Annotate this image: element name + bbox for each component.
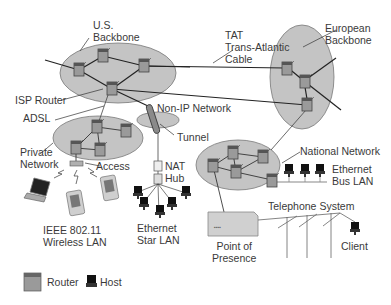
pda-icon bbox=[100, 175, 119, 201]
router-icon bbox=[98, 48, 110, 62]
router-icon bbox=[267, 173, 279, 187]
router-icon bbox=[74, 62, 86, 76]
us-backbone-label: U.S. Backbone bbox=[93, 19, 140, 43]
router-icon bbox=[139, 58, 151, 72]
host-icon bbox=[300, 164, 310, 177]
private-network-label: Private Network bbox=[20, 146, 59, 170]
legend-host-icon bbox=[86, 275, 97, 287]
tunnel-label: Tunnel bbox=[177, 131, 209, 143]
tat-label: TAT Trans-Atlantic Cable bbox=[225, 29, 289, 65]
telephone-system-label: Telephone System bbox=[268, 200, 354, 212]
hub-icon bbox=[154, 174, 162, 184]
nat-icon bbox=[154, 161, 162, 171]
nat-label: NAT bbox=[165, 160, 185, 172]
isp-router-icon bbox=[107, 81, 119, 95]
adsl-label: ADSL bbox=[23, 112, 50, 124]
point-of-presence-icon: ▪▪▪▪ bbox=[208, 212, 258, 236]
host-icon bbox=[315, 164, 325, 177]
wireless-lan-label: IEEE 802.11 Wireless LAN bbox=[43, 224, 107, 248]
router-icon bbox=[300, 74, 312, 88]
router-icon bbox=[71, 140, 83, 154]
european-backbone-label: European Backbone bbox=[325, 22, 372, 46]
host-icon bbox=[139, 197, 149, 210]
legend-router-icon bbox=[24, 273, 41, 291]
national-network-label: National Network bbox=[300, 145, 380, 157]
host-icon bbox=[167, 197, 177, 210]
point-of-presence-label: Point of Presence bbox=[212, 240, 256, 264]
legend-router-label: Router bbox=[47, 276, 79, 288]
hub-label: Hub bbox=[165, 172, 184, 184]
legend-host-label: Host bbox=[100, 276, 122, 288]
router-icon bbox=[121, 123, 133, 137]
host-icon bbox=[181, 186, 191, 199]
ethernet-star-lan-label: Ethernet Star LAN bbox=[137, 222, 180, 246]
svg-text:▪▪▪▪: ▪▪▪▪ bbox=[214, 224, 221, 230]
router-icon bbox=[228, 145, 240, 159]
access-point-icon bbox=[70, 161, 83, 166]
pda-icon bbox=[66, 190, 85, 216]
access-label: Access bbox=[96, 160, 130, 172]
laptop-icon bbox=[24, 178, 50, 202]
router-icon bbox=[95, 142, 107, 156]
client-host-icon bbox=[350, 222, 360, 235]
host-icon bbox=[155, 205, 165, 218]
isp-router-label: ISP Router bbox=[15, 94, 66, 106]
ethernet-bus-lan-label: Ethernet Bus LAN bbox=[332, 163, 373, 187]
host-icon bbox=[284, 164, 294, 177]
router-icon bbox=[231, 164, 243, 178]
router-icon bbox=[208, 158, 220, 172]
non-ip-network-label: Non-IP Network bbox=[157, 102, 231, 114]
client-label: Client bbox=[341, 240, 368, 252]
router-icon bbox=[92, 119, 104, 133]
router-icon bbox=[302, 97, 314, 111]
router-icon bbox=[258, 149, 270, 163]
